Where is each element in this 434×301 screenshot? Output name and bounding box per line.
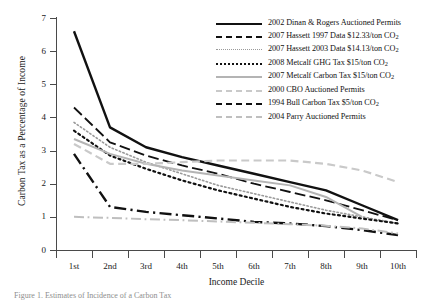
- x-axis-title: Income Decile: [56, 277, 417, 287]
- x-axis-tick-label: 5th: [198, 261, 238, 271]
- x-axis-tick: [164, 251, 165, 258]
- legend-item-label: 2007 Metcalf Carbon Tax $15/ton CO2: [268, 71, 394, 81]
- legend-swatch-long-dash-black: [216, 30, 262, 42]
- legend-label-subscript: 2: [391, 73, 394, 80]
- x-axis-tick: [92, 251, 93, 258]
- x-axis-tick: [416, 251, 417, 258]
- legend-swatch-dashed-light-gray: [216, 84, 262, 96]
- y-axis-tick-label: 3: [26, 146, 46, 155]
- legend-item[interactable]: 2004 Parry Auctioned Permits: [216, 110, 434, 123]
- legend-item-label: 2004 Parry Auctioned Permits: [268, 112, 366, 121]
- legend-item[interactable]: 2007 Hassett 2003 Data $14.13/ton CO2: [216, 43, 434, 56]
- legend-swatch-solid-gray: [216, 70, 262, 82]
- x-axis-tick-label: 10th: [378, 261, 418, 271]
- series-line: [74, 144, 398, 182]
- x-axis-tick-label: 1st: [54, 261, 94, 271]
- legend-item-label: 2008 Metcalf GHG Tax $15/ton CO2: [268, 58, 388, 68]
- y-axis-tick-label: 5: [26, 80, 46, 89]
- legend-item[interactable]: 2007 Hassett 1997 Data $12.33/ton CO2: [216, 29, 434, 42]
- legend-item[interactable]: 2008 Metcalf GHG Tax $15/ton CO2: [216, 56, 434, 69]
- legend-label-subscript: 2: [376, 100, 379, 107]
- figure-container: Carbon Tax as a Percentage of Income 765…: [0, 0, 434, 301]
- y-axis-tick-label: 1: [26, 212, 46, 221]
- y-axis-tick-label: 4: [26, 113, 46, 122]
- x-axis-tick: [236, 251, 237, 258]
- x-axis-tick-label: 8th: [306, 261, 346, 271]
- figure-caption: Figure 1. Estimates of Incidence of a Ca…: [14, 291, 424, 301]
- legend-swatch-solid-black: [216, 17, 262, 29]
- legend-item[interactable]: 2002 Dinan & Rogers Auctioned Permits: [216, 16, 434, 29]
- legend-item-label: 2000 CBO Auctioned Permits: [268, 85, 365, 94]
- legend-label-subscript: 2: [395, 46, 398, 53]
- y-axis-tick-label: 0: [26, 246, 46, 255]
- y-axis-tick-label: 7: [26, 14, 46, 23]
- x-axis-tick: [272, 251, 273, 258]
- x-axis-tick: [308, 251, 309, 258]
- legend-item-label: 2007 Hassett 1997 Data $12.33/ton CO2: [268, 31, 399, 41]
- legend-swatch-dash-dot-black: [216, 97, 262, 109]
- x-axis-tick-label: 6th: [234, 261, 274, 271]
- x-axis-tick: [56, 251, 57, 258]
- x-axis-tick: [380, 251, 381, 258]
- legend-item[interactable]: 1994 Bull Carbon Tax $5/ton CO2: [216, 96, 434, 109]
- legend-swatch-dotted-black: [216, 57, 262, 69]
- x-axis-tick-label: 7th: [270, 261, 310, 271]
- legend-item[interactable]: 2000 CBO Auctioned Permits: [216, 83, 434, 96]
- x-axis-tick-label: 9th: [342, 261, 382, 271]
- legend-label-subscript: 2: [385, 60, 388, 67]
- x-axis-tick: [200, 251, 201, 258]
- legend-item-label: 2002 Dinan & Rogers Auctioned Permits: [268, 18, 401, 27]
- x-axis-tick: [344, 251, 345, 258]
- legend-label-subscript: 2: [395, 33, 398, 40]
- y-axis-tick-label: 6: [26, 47, 46, 56]
- x-axis-tick-label: 3rd: [126, 261, 166, 271]
- legend-item[interactable]: 2007 Metcalf Carbon Tax $15/ton CO2: [216, 70, 434, 83]
- chart-legend: 2002 Dinan & Rogers Auctioned Permits200…: [216, 16, 434, 123]
- legend-item-label: 1994 Bull Carbon Tax $5/ton CO2: [268, 98, 379, 108]
- y-axis-tick-label: 2: [26, 179, 46, 188]
- x-axis-tick: [128, 251, 129, 258]
- legend-swatch-dotted-gray: [216, 43, 262, 55]
- legend-swatch-dash-dot-light-gray: [216, 110, 262, 122]
- x-axis-tick-label: 2nd: [90, 261, 130, 271]
- x-axis-tick-label: 4th: [162, 261, 202, 271]
- legend-item-label: 2007 Hassett 2003 Data $14.13/ton CO2: [268, 44, 399, 54]
